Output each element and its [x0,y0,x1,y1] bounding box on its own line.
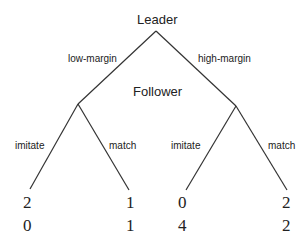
action-right-match: match [268,140,295,151]
action-left-match: match [109,140,136,151]
payoff-2-leader: 1 [126,193,135,213]
payoff-4-leader: 2 [282,193,291,213]
game-tree-edges [0,0,308,241]
payoff-3-leader: 0 [178,193,187,213]
follower-node-label: Follower [133,84,182,99]
payoff-1-leader: 2 [23,193,32,213]
action-left-imitate: imitate [15,140,44,151]
payoff-3-follower: 4 [178,216,187,236]
payoff-2-follower: 1 [126,216,135,236]
action-high-margin: high-margin [198,53,251,64]
payoff-4-follower: 2 [282,216,291,236]
leader-node-label: Leader [137,12,177,27]
action-low-margin: low-margin [68,53,117,64]
payoff-1-follower: 0 [23,216,32,236]
action-right-imitate: imitate [171,140,200,151]
